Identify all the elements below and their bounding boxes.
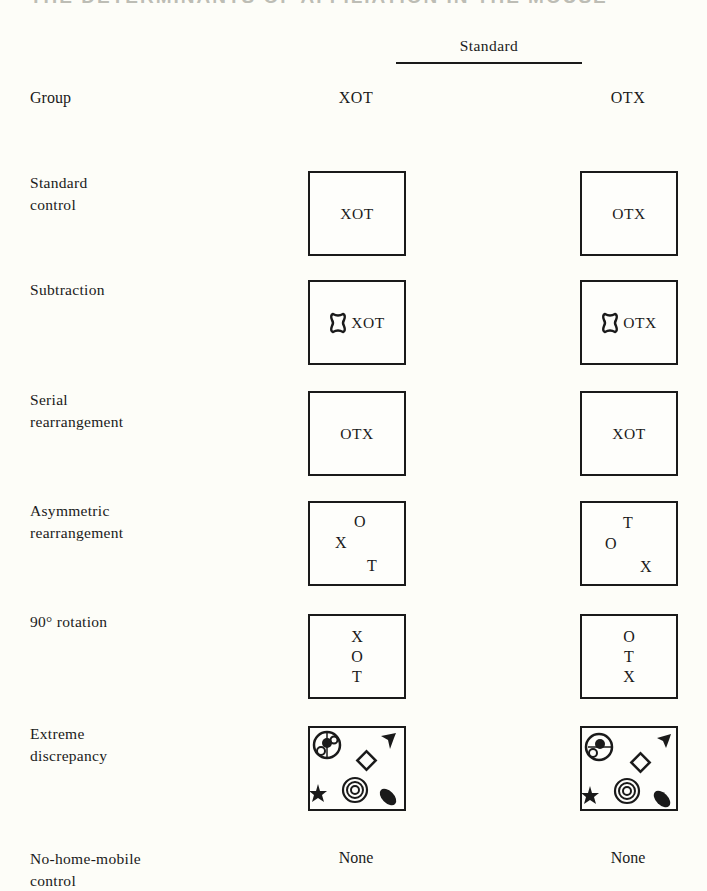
- stimulus-box-extreme-xot: [308, 726, 406, 811]
- row-label-line: Extreme: [30, 723, 107, 745]
- concentric-circles-icon: [615, 779, 639, 803]
- stimulus-letter: O: [582, 627, 676, 647]
- tri-blade-icon: [381, 733, 396, 749]
- stimulus-letter: O: [605, 535, 617, 553]
- stimulus-box-rotation-otx: O T X: [580, 614, 678, 699]
- stimulus-letter: X: [310, 627, 404, 647]
- stimulus-text: XOT: [582, 425, 676, 443]
- stimulus-box-extreme-otx: [580, 726, 678, 811]
- stimulus-content: XOT: [310, 312, 404, 334]
- teardrop-icon: [651, 788, 674, 809]
- column-header-otx: OTX: [578, 89, 678, 107]
- hourglass-blob-icon: [329, 312, 347, 334]
- stimulus-box-standard-control-xot: XOT: [308, 171, 406, 256]
- stimulus-letter: X: [640, 558, 652, 576]
- stimulus-letter: T: [367, 557, 377, 575]
- stimulus-box-subtraction-xot: XOT: [308, 280, 406, 365]
- stimulus-letter: O: [310, 647, 404, 667]
- stimulus-text: OTX: [310, 425, 404, 443]
- spoked-circle-icon: [314, 732, 340, 758]
- hourglass-blob-icon: [601, 312, 619, 334]
- teardrop-icon: [377, 786, 400, 809]
- cell-none-otx: None: [578, 849, 678, 867]
- diamond-icon: [631, 753, 649, 771]
- row-label-no-home-mobile-control: No-home-mobile control: [30, 848, 141, 891]
- diamond-icon: [357, 751, 375, 769]
- stimulus-text: OTX: [623, 314, 656, 332]
- stimulus-box-serial-otx: XOT: [580, 391, 678, 476]
- column-super-rule: [396, 62, 582, 64]
- abstract-shapes: [582, 728, 676, 809]
- row-label-asymmetric-rearrangement: Asymmetric rearrangement: [30, 500, 123, 544]
- stimulus-vertical-stack: O T X: [582, 627, 676, 687]
- cell-none-xot: None: [306, 849, 406, 867]
- row-label-standard-control: Standard control: [30, 172, 88, 216]
- row-label-line: 90° rotation: [30, 611, 107, 633]
- row-label-line: control: [30, 870, 141, 891]
- row-header-group: Group: [30, 89, 71, 107]
- row-label-line: rearrangement: [30, 411, 123, 433]
- tri-blade-icon: [657, 734, 671, 748]
- row-label-line: Asymmetric: [30, 500, 123, 522]
- column-super-header: Standard: [396, 37, 582, 55]
- abstract-shapes: [310, 728, 404, 809]
- stimulus-letter: T: [582, 647, 676, 667]
- stimulus-letter: X: [582, 667, 676, 687]
- star-icon: [582, 786, 599, 804]
- row-label-line: Standard: [30, 172, 88, 194]
- stimulus-box-standard-control-otx: OTX: [580, 171, 678, 256]
- column-header-xot: XOT: [306, 89, 406, 107]
- stimulus-box-asymmetric-otx: T O X: [580, 501, 678, 586]
- row-label-extreme-discrepancy: Extreme discrepancy: [30, 723, 107, 767]
- concentric-circles-icon: [343, 778, 367, 802]
- row-label-line: Serial: [30, 389, 123, 411]
- row-label-line: discrepancy: [30, 745, 107, 767]
- stimulus-letter: X: [335, 534, 347, 552]
- row-label-serial-rearrangement: Serial rearrangement: [30, 389, 123, 433]
- stimulus-text: OTX: [582, 205, 676, 223]
- row-label-line: control: [30, 194, 88, 216]
- stimulus-text: XOT: [351, 314, 384, 332]
- row-label-line: Subtraction: [30, 279, 105, 301]
- row-label-line: rearrangement: [30, 522, 123, 544]
- stimulus-text: XOT: [310, 205, 404, 223]
- stimulus-letter: T: [310, 667, 404, 687]
- row-label-90-rotation: 90° rotation: [30, 611, 107, 633]
- spoked-circle-icon: [586, 734, 612, 760]
- stimulus-box-subtraction-otx: OTX: [580, 280, 678, 365]
- stimulus-box-rotation-xot: X O T: [308, 614, 406, 699]
- cropped-heading: THE DETERMINANTS OF AFFILIATION IN THE M…: [30, 0, 680, 6]
- stimulus-letter: O: [354, 513, 366, 531]
- stimulus-letter: T: [623, 514, 633, 532]
- row-label-line: No-home-mobile: [30, 848, 141, 870]
- stimulus-content: OTX: [582, 312, 676, 334]
- stimulus-box-serial-xot: OTX: [308, 391, 406, 476]
- stimulus-box-asymmetric-xot: O X T: [308, 501, 406, 586]
- stimulus-vertical-stack: X O T: [310, 627, 404, 687]
- star-icon: [310, 784, 327, 802]
- row-label-subtraction: Subtraction: [30, 279, 105, 301]
